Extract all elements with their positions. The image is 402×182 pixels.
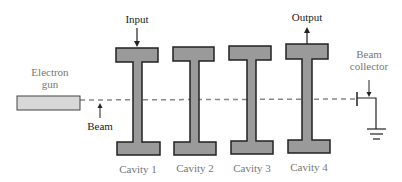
electron-gun-label: Electron gun <box>24 66 76 90</box>
collector-wire <box>357 98 376 129</box>
cavity-4-label: Cavity 4 <box>283 161 335 173</box>
cavity-2-shape <box>173 47 216 155</box>
output-arrowhead-icon <box>304 27 310 33</box>
input-arrowhead-icon <box>134 41 140 47</box>
beam-collector-label: Beam collector <box>340 48 398 72</box>
cavity-1-shape <box>116 48 160 155</box>
beam-arrowhead-icon <box>98 103 103 108</box>
klystron-diagram <box>0 0 402 182</box>
electron-gun <box>17 96 80 110</box>
ground-icon <box>367 129 386 139</box>
electron-beam-line <box>80 99 356 100</box>
electron-gun-label-line2: gun <box>24 78 76 90</box>
cavity-3-label: Cavity 3 <box>226 162 278 174</box>
beam-collector-label-line2: collector <box>340 60 398 72</box>
electron-gun-label-line1: Electron <box>24 66 76 78</box>
beam-collector-label-line1: Beam <box>340 48 398 60</box>
output-label: Output <box>284 11 330 23</box>
cavity-2-label: Cavity 2 <box>169 162 221 174</box>
cavity-1-label: Cavity 1 <box>112 163 164 175</box>
input-label: Input <box>118 13 156 25</box>
beam-label: Beam <box>82 120 118 132</box>
collector-arrowhead-icon <box>367 92 372 97</box>
